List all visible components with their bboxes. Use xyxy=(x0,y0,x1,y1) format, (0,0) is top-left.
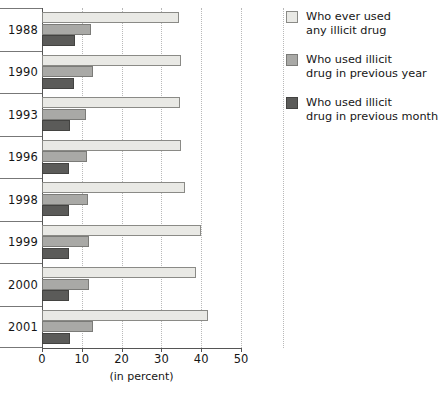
bar-1988-series-3 xyxy=(42,35,75,46)
bar-1998-series-3 xyxy=(42,205,69,216)
plot-right-edge xyxy=(283,8,284,348)
bar-1998-series-2 xyxy=(42,194,88,205)
bar-1988-series-2 xyxy=(42,24,91,35)
dark-gray-swatch xyxy=(286,97,298,109)
bar-1999-series-2 xyxy=(42,236,89,247)
x-tick-label-40: 40 xyxy=(194,352,209,366)
bar-1993-series-1 xyxy=(42,97,180,108)
x-tick-label-20: 20 xyxy=(114,352,129,366)
plot-area xyxy=(42,8,241,348)
chart-legend: Who ever used any illicit drugWho used i… xyxy=(286,10,442,139)
legend-item-3[interactable]: Who used illicit drug in previous month xyxy=(286,96,442,124)
bar-2001-series-2 xyxy=(42,321,93,332)
legend-label-1: Who ever used any illicit drug xyxy=(306,10,391,38)
category-label-2001: 2001 xyxy=(0,306,42,349)
bar-1996-series-3 xyxy=(42,163,69,174)
bar-1990-series-1 xyxy=(42,55,181,66)
category-label-1996: 1996 xyxy=(0,136,42,179)
legend-label-2: Who used illicit drug in previous year xyxy=(306,53,427,81)
category-label-2000: 2000 xyxy=(0,263,42,306)
bar-2001-series-1 xyxy=(42,310,208,321)
bar-1999-series-1 xyxy=(42,225,201,236)
legend-item-2[interactable]: Who used illicit drug in previous year xyxy=(286,53,442,81)
category-label-1993: 1993 xyxy=(0,93,42,136)
bar-1998-series-1 xyxy=(42,182,185,193)
x-tick-label-10: 10 xyxy=(74,352,89,366)
category-label-1990: 1990 xyxy=(0,51,42,94)
legend-item-1[interactable]: Who ever used any illicit drug xyxy=(286,10,442,38)
bar-2000-series-2 xyxy=(42,279,89,290)
bar-1996-series-2 xyxy=(42,151,87,162)
category-label-1999: 1999 xyxy=(0,221,42,264)
bar-1990-series-3 xyxy=(42,78,74,89)
x-tick-label-0: 0 xyxy=(38,352,45,366)
bar-1999-series-3 xyxy=(42,248,69,259)
bar-2000-series-3 xyxy=(42,290,69,301)
category-axis: 19881990199319961998199920002001 xyxy=(0,8,42,348)
bar-2001-series-3 xyxy=(42,333,70,344)
light-gray-swatch xyxy=(286,11,298,23)
bar-chart: 19881990199319961998199920002001 0102030… xyxy=(0,0,446,403)
x-tick-label-50: 50 xyxy=(234,352,249,366)
x-axis-line xyxy=(42,348,242,349)
x-axis-title: (in percent) xyxy=(42,370,241,383)
gridline-50 xyxy=(241,8,242,348)
legend-label-3: Who used illicit drug in previous month xyxy=(306,96,438,124)
bar-1993-series-2 xyxy=(42,109,86,120)
bar-1988-series-1 xyxy=(42,12,179,23)
x-tick-label-30: 30 xyxy=(154,352,169,366)
medium-gray-swatch xyxy=(286,54,298,66)
bar-1990-series-2 xyxy=(42,66,93,77)
bar-2000-series-1 xyxy=(42,267,196,278)
bar-1993-series-3 xyxy=(42,120,70,131)
category-label-1988: 1988 xyxy=(0,8,42,51)
category-label-1998: 1998 xyxy=(0,178,42,221)
bar-1996-series-1 xyxy=(42,140,181,151)
